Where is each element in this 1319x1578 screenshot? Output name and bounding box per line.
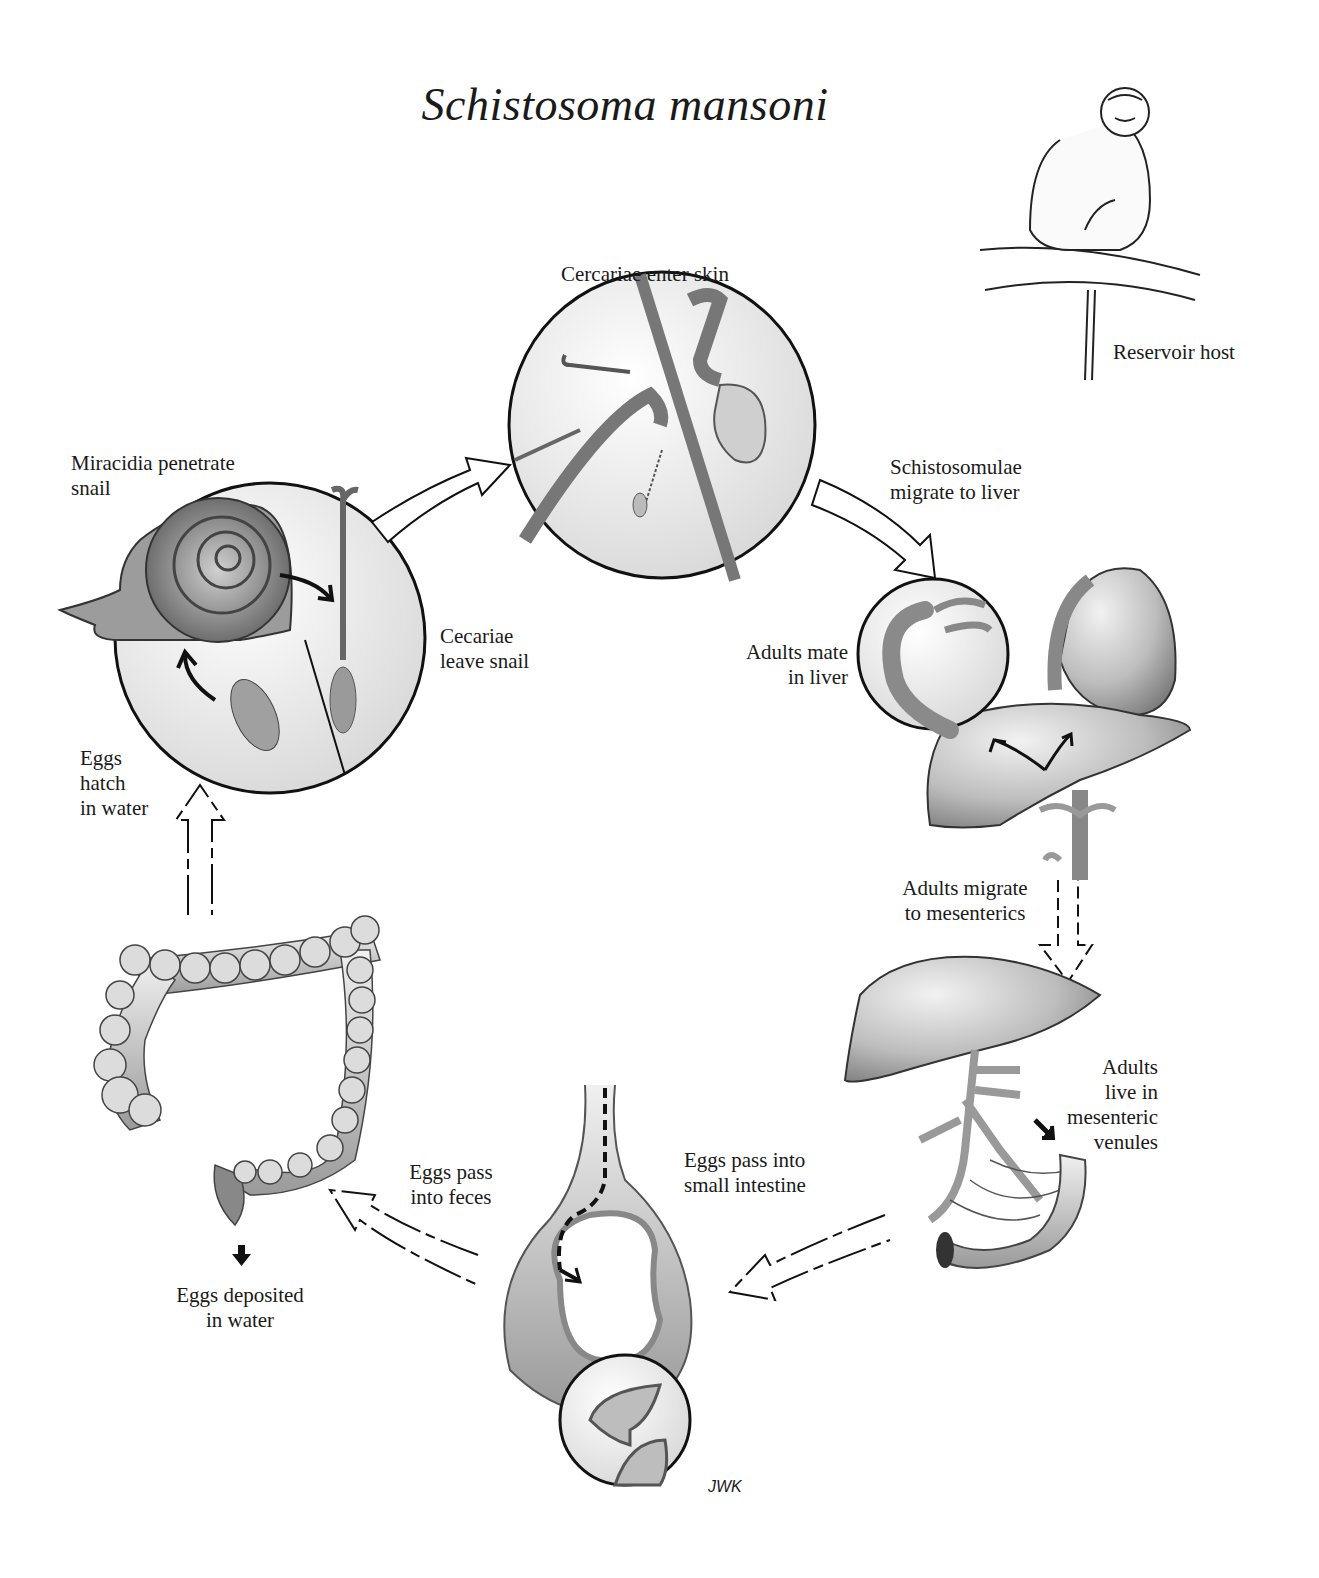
liver-heart-illustration bbox=[858, 568, 1190, 880]
label-eggs-deposited-in-water: Eggs deposited in water bbox=[155, 1283, 325, 1333]
label-eggs-pass-into-small-intestine: Eggs pass into small intestine bbox=[684, 1148, 806, 1198]
arrow-mesenterics-to-small-intestine bbox=[730, 1215, 890, 1300]
label-eggs-hatch-in-water: Eggs hatch in water bbox=[80, 746, 148, 821]
label-adults-mate-in-liver: Adults mate in liver bbox=[700, 640, 848, 690]
arrow-water-to-snail bbox=[176, 785, 224, 915]
label-cercariae-enter-skin: Cercariae enter skin bbox=[561, 262, 729, 287]
large-intestine-illustration bbox=[94, 916, 380, 1225]
label-schistosomulae-migrate: Schistosomulae migrate to liver bbox=[890, 455, 1022, 505]
label-eggs-pass-into-feces: Eggs pass into feces bbox=[392, 1160, 510, 1210]
label-miracidia-penetrate-snail: Miracidia penetrate snail bbox=[71, 451, 235, 501]
eggs-deposited-down-arrow bbox=[232, 1245, 251, 1266]
life-cycle-diagram: Schistosoma mansoni Cercariae enter skin… bbox=[0, 0, 1319, 1578]
label-adults-migrate-to-mesenterics: Adults migrate to mesenterics bbox=[880, 876, 1050, 926]
diagram-title: Schistosoma mansoni bbox=[0, 78, 1250, 131]
small-intestine-cross-section-illustration bbox=[504, 1085, 691, 1485]
monkey-reservoir-host-illustration bbox=[980, 88, 1200, 380]
label-reservoir-host: Reservoir host bbox=[1113, 340, 1235, 365]
artist-signature: JWK bbox=[708, 1478, 742, 1496]
label-adults-live-in-mesenteric-venules: Adults live in mesenteric venules bbox=[1040, 1055, 1158, 1155]
diagram-artwork bbox=[0, 0, 1319, 1578]
skin-penetration-illustration bbox=[509, 272, 815, 580]
arrow-snail-to-skin bbox=[372, 458, 510, 542]
label-cecariae-leave-snail: Cecariae leave snail bbox=[440, 624, 529, 674]
